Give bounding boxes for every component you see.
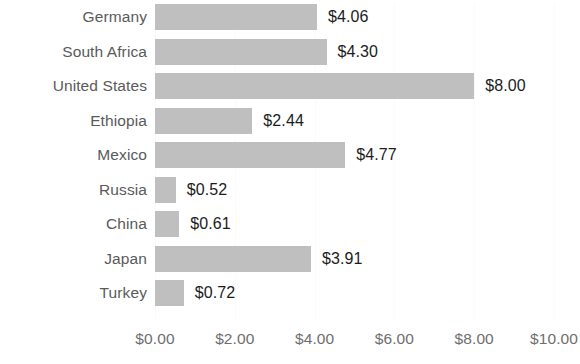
chart-row: China$0.61 <box>0 207 580 242</box>
x-axis-tick-label: $2.00 <box>215 330 254 348</box>
bar-value-label: $4.30 <box>338 43 379 61</box>
chart-plot-area: Germany$4.06South Africa$4.30United Stat… <box>0 0 580 311</box>
bar[interactable] <box>155 142 345 168</box>
bar-value-label: $0.61 <box>190 215 231 233</box>
chart-row: Japan$3.91 <box>0 242 580 277</box>
bar-group: $2.44 <box>155 108 304 134</box>
chart-row: Germany$4.06 <box>0 0 580 35</box>
bar-group: $8.00 <box>155 73 526 99</box>
category-label: Japan <box>104 250 147 268</box>
category-label: Mexico <box>97 146 147 164</box>
chart-row: Russia$0.52 <box>0 173 580 208</box>
bar[interactable] <box>155 211 179 237</box>
bar-value-label: $0.52 <box>187 181 228 199</box>
x-axis: $0.00$2.00$4.00$6.00$8.00$10.00 <box>0 326 580 364</box>
category-label: China <box>106 215 147 233</box>
x-axis-tick-label: $8.00 <box>455 330 494 348</box>
bar-value-label: $2.44 <box>263 112 304 130</box>
category-label: Russia <box>99 181 147 199</box>
bar-group: $0.72 <box>155 280 235 306</box>
bar-value-label: $3.91 <box>322 250 363 268</box>
bar-chart: Germany$4.06South Africa$4.30United Stat… <box>0 0 580 364</box>
bar-value-label: $0.72 <box>195 284 236 302</box>
bar-value-label: $8.00 <box>485 77 526 95</box>
category-label: Turkey <box>100 284 147 302</box>
category-label: Ethiopia <box>90 112 147 130</box>
bar[interactable] <box>155 4 317 30</box>
x-axis-tick-label: $0.00 <box>135 330 174 348</box>
bar[interactable] <box>155 73 474 99</box>
bar[interactable] <box>155 246 311 272</box>
bar-value-label: $4.06 <box>328 8 369 26</box>
bar-group: $4.06 <box>155 4 369 30</box>
x-axis-tick-label: $10.00 <box>530 330 578 348</box>
category-label: Germany <box>83 8 147 26</box>
bar-group: $3.91 <box>155 246 363 272</box>
bar[interactable] <box>155 108 252 134</box>
x-axis-tick-label: $6.00 <box>375 330 414 348</box>
bar[interactable] <box>155 177 176 203</box>
bar-group: $4.30 <box>155 39 378 65</box>
category-label: United States <box>53 77 147 95</box>
x-axis-tick-label: $4.00 <box>295 330 334 348</box>
bar-group: $0.61 <box>155 211 231 237</box>
category-label: South Africa <box>62 43 147 61</box>
bar[interactable] <box>155 280 184 306</box>
bar-value-label: $4.77 <box>356 146 397 164</box>
chart-row: Turkey$0.72 <box>0 276 580 311</box>
chart-row: Ethiopia$2.44 <box>0 104 580 139</box>
chart-row: Mexico$4.77 <box>0 138 580 173</box>
chart-row: South Africa$4.30 <box>0 35 580 70</box>
bar-group: $4.77 <box>155 142 397 168</box>
bar[interactable] <box>155 39 327 65</box>
bar-group: $0.52 <box>155 177 227 203</box>
chart-row: United States$8.00 <box>0 69 580 104</box>
